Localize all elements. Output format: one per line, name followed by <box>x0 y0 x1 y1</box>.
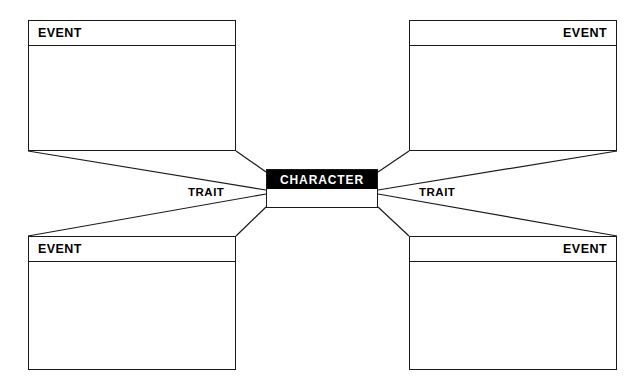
character-label: CHARACTER <box>280 174 364 186</box>
event-label-bottom-left: EVENT <box>38 243 82 256</box>
connector-bottom-right-upper <box>378 194 617 236</box>
character-header: CHARACTER <box>267 170 377 189</box>
character-write-area[interactable] <box>267 189 377 207</box>
event-box-bottom-left[interactable]: EVENT <box>28 236 236 370</box>
event-write-area-bottom-left[interactable] <box>29 262 235 369</box>
connector-bottom-left-upper <box>28 194 266 236</box>
event-write-area-top-left[interactable] <box>29 46 235 150</box>
event-box-bottom-right[interactable]: EVENT <box>409 236 617 370</box>
event-header-bottom-right: EVENT <box>410 237 616 262</box>
event-write-area-top-right[interactable] <box>410 46 616 150</box>
event-label-top-right: EVENT <box>563 27 607 40</box>
connector-top-left-lower <box>28 151 266 190</box>
character-map-organizer: EVENT EVENT EVENT EVENT CHARACTER TRAIT … <box>0 0 644 386</box>
connector-bottom-right-lower <box>378 207 409 236</box>
event-header-bottom-left: EVENT <box>29 237 235 262</box>
event-label-top-left: EVENT <box>38 27 82 40</box>
character-box[interactable]: CHARACTER <box>266 169 378 208</box>
connector-top-left-upper <box>236 151 266 172</box>
event-label-bottom-right: EVENT <box>563 243 607 256</box>
trait-label-right: TRAIT <box>417 186 457 200</box>
connector-top-right-upper <box>378 151 409 172</box>
event-header-top-right: EVENT <box>410 21 616 46</box>
trait-label-left: TRAIT <box>186 186 226 200</box>
connector-top-right-lower <box>378 151 617 190</box>
event-box-top-left[interactable]: EVENT <box>28 20 236 151</box>
event-box-top-right[interactable]: EVENT <box>409 20 617 151</box>
event-write-area-bottom-right[interactable] <box>410 262 616 369</box>
event-header-top-left: EVENT <box>29 21 235 46</box>
connector-bottom-left-lower <box>236 207 266 236</box>
